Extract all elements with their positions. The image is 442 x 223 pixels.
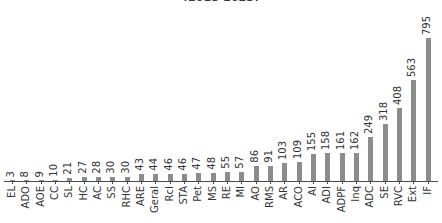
bar-value-label: 55 — [221, 156, 235, 169]
x-axis-label-ar: AR — [278, 186, 292, 200]
bar-rci[interactable]: 46 — [164, 0, 178, 182]
bar-rect — [311, 154, 316, 182]
bar-inq[interactable]: 162 — [350, 0, 364, 182]
x-axis-tick — [170, 181, 171, 184]
x-axis-tick — [12, 181, 13, 184]
bar-adi[interactable]: 158 — [321, 0, 335, 182]
x-axis-label-ado: ADO — [20, 186, 34, 208]
x-axis-tick — [241, 181, 242, 184]
x-axis-tick — [327, 181, 328, 184]
x-axis-label-aoe: AOE — [35, 186, 49, 207]
bar-ar[interactable]: 103 — [278, 0, 292, 182]
x-axis-tick — [299, 181, 300, 184]
plot-area: 3891021272830304344464647485557869110310… — [0, 0, 442, 182]
x-axis-label-hc: HC — [78, 186, 92, 201]
bar-ai[interactable]: 155 — [307, 0, 321, 182]
bar-rhc[interactable]: 30 — [121, 0, 135, 182]
bar-rms[interactable]: 91 — [264, 0, 278, 182]
bar-rect — [297, 162, 302, 182]
x-axis-tick — [270, 181, 271, 184]
bar-ao[interactable]: 86 — [250, 0, 264, 182]
bar-rect — [340, 153, 345, 182]
x-axis-tick — [141, 181, 142, 184]
bar-re[interactable]: 55 — [221, 0, 235, 182]
x-axis-tick — [428, 181, 429, 184]
bar-rect — [254, 166, 259, 182]
x-axis-label-re: RE — [221, 186, 235, 199]
x-axis-tick — [127, 181, 128, 184]
bar-value-label: 91 — [264, 150, 278, 163]
x-axis-label-inq: Inq — [350, 186, 364, 202]
x-axis-tick — [26, 181, 27, 184]
x-axis-label-adpf: ADPF — [336, 186, 350, 212]
bar-value-label: 795 — [422, 16, 436, 35]
bar-value-label: 21 — [63, 162, 77, 175]
bar-rect — [411, 80, 416, 182]
bar-sta[interactable]: 46 — [178, 0, 192, 182]
bar-rect — [282, 163, 287, 182]
bar-aoe[interactable]: 9 — [35, 0, 49, 182]
bar-value-label: 30 — [106, 161, 120, 174]
x-axis-tick — [356, 181, 357, 184]
x-axis-label-rms: RMS — [264, 186, 278, 208]
bar-rect — [368, 137, 373, 182]
x-axis-tick — [256, 181, 257, 184]
x-axis-label-aco: ACO — [293, 186, 307, 208]
bar-ext[interactable]: 563 — [407, 0, 421, 182]
bar-value-label: 563 — [407, 58, 421, 77]
bar-geral[interactable]: 44 — [149, 0, 163, 182]
bar-value-label: 86 — [250, 150, 264, 163]
bar-value-label: 46 — [164, 158, 178, 171]
x-axis-tick — [69, 181, 70, 184]
x-axis-tick — [399, 181, 400, 184]
bar-value-label: 43 — [135, 158, 149, 171]
bar-pet[interactable]: 47 — [192, 0, 206, 182]
bar-value-label: 28 — [92, 161, 106, 174]
x-axis-label-ao: AO — [250, 186, 264, 201]
bar-sl[interactable]: 21 — [63, 0, 77, 182]
x-axis-label-ac: AC — [92, 186, 106, 200]
bar-adc[interactable]: 249 — [364, 0, 378, 182]
x-axis-tick — [227, 181, 228, 184]
bar-adpf[interactable]: 161 — [336, 0, 350, 182]
bar-se[interactable]: 318 — [379, 0, 393, 182]
x-axis-tick — [385, 181, 386, 184]
bar-ado[interactable]: 8 — [20, 0, 34, 182]
x-axis-tick — [112, 181, 113, 184]
x-axis-tick — [41, 181, 42, 184]
x-axis-label-cc: CC — [49, 186, 63, 200]
bar-chart: (2018-2023) 3891021272830304344464647485… — [0, 0, 442, 223]
bar-value-label: 44 — [149, 158, 163, 171]
x-axis-tick — [342, 181, 343, 184]
bar-if[interactable]: 795 — [422, 0, 436, 182]
bar-are[interactable]: 43 — [135, 0, 149, 182]
x-axis-label-ms: MS — [207, 186, 221, 201]
bar-value-label: 47 — [192, 157, 206, 170]
bar-rvc[interactable]: 408 — [393, 0, 407, 182]
bar-cc[interactable]: 10 — [49, 0, 63, 182]
bar-mi[interactable]: 57 — [235, 0, 249, 182]
bar-hc[interactable]: 27 — [78, 0, 92, 182]
bar-value-label: 30 — [121, 161, 135, 174]
x-axis-label-mi: MI — [235, 186, 249, 198]
bar-value-label: 162 — [350, 131, 364, 150]
x-axis-label-if: IF — [422, 186, 436, 195]
x-axis-label-geral: Geral — [149, 186, 163, 213]
bar-rect — [426, 38, 431, 182]
bar-ss[interactable]: 30 — [106, 0, 120, 182]
x-axis-label-el: EL — [6, 186, 20, 198]
bar-value-label: 3 — [6, 171, 20, 177]
bar-value-label: 158 — [321, 131, 335, 150]
x-axis-tick — [84, 181, 85, 184]
bar-value-label: 318 — [379, 102, 393, 121]
bar-aco[interactable]: 109 — [293, 0, 307, 182]
x-axis-label-pet: Pet — [192, 186, 206, 202]
bar-ms[interactable]: 48 — [207, 0, 221, 182]
bar-ac[interactable]: 28 — [92, 0, 106, 182]
x-axis-tick — [55, 181, 56, 184]
bar-el[interactable]: 3 — [6, 0, 20, 182]
bar-value-label: 57 — [235, 156, 249, 169]
bar-rect — [325, 153, 330, 182]
x-axis-label-ai: AI — [307, 186, 321, 196]
x-axis-tick — [213, 181, 214, 184]
